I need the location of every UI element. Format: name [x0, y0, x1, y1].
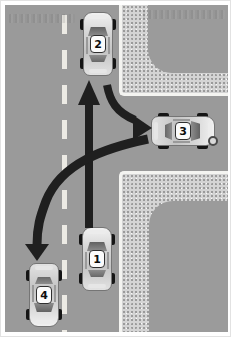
car-4-number: 4: [36, 286, 52, 304]
lane-divider-dashed-line: [62, 5, 67, 332]
car-rear-window: [89, 55, 107, 62]
car-front-bumper: [89, 15, 107, 19]
car-3-front-wheel-circle: [208, 136, 218, 146]
car-1-number: 1: [89, 250, 105, 268]
car-windshield: [191, 121, 200, 141]
car-front-bumper: [88, 230, 106, 234]
car-rear-bumper: [154, 122, 158, 140]
car-4: 4: [27, 263, 61, 327]
car-rear-window: [165, 122, 172, 140]
car-side-window: [54, 285, 56, 302]
car-2-number: 2: [90, 35, 106, 53]
car-1: 1: [80, 227, 114, 291]
car-side-window: [108, 37, 110, 54]
car-rear-window: [35, 277, 53, 284]
car-rear-bumper: [35, 266, 53, 270]
traffic-diagram-frame: 1 2: [0, 0, 231, 337]
straight-ahead-arrow: [78, 80, 100, 228]
car-side-window: [32, 285, 34, 302]
car-rear-bumper: [89, 69, 107, 73]
watermark-right: [143, 10, 225, 19]
car-rear-window: [88, 270, 106, 277]
sidewalk-corner-bottom-right: [119, 171, 228, 332]
car-3-number: 3: [175, 122, 191, 140]
car-side-window: [85, 252, 87, 269]
car-body: 4: [29, 263, 59, 327]
curb-block-bottom-right: [149, 201, 228, 332]
car-body: 3: [151, 116, 215, 146]
car-side-window: [173, 119, 190, 121]
car-front-bumper: [35, 320, 53, 324]
car-2: 2: [81, 12, 115, 76]
car-body: 2: [83, 12, 113, 76]
car-side-window: [107, 252, 109, 269]
car-body: 1: [82, 227, 112, 291]
watermark-left: [9, 14, 75, 23]
car-side-window: [173, 141, 190, 143]
car-windshield: [34, 303, 54, 312]
road-surface: 1 2: [5, 5, 228, 332]
car-rear-bumper: [88, 284, 106, 288]
car-side-window: [86, 37, 88, 54]
car-3: 3: [151, 114, 215, 148]
